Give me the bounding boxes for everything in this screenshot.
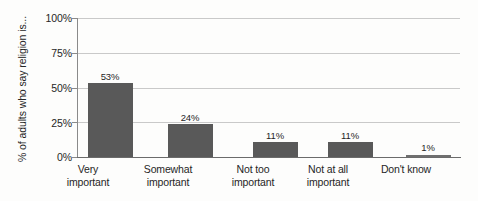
plot-area: 53% 24% 11% 11% 1% (78, 18, 460, 157)
bar-not-at-all-important[interactable] (328, 142, 373, 157)
y-tick-label-0: 0% (12, 151, 72, 163)
x-category-line-2: important (281, 176, 375, 189)
bar-label-somewhat-important: 24% (151, 112, 229, 123)
x-category-label-dont-know: Don't know (359, 163, 453, 176)
y-tick-label-75: 75% (12, 47, 72, 59)
bar-not-too-important[interactable] (253, 142, 298, 157)
y-tick-label-50: 50% (12, 82, 72, 94)
bar-very-important[interactable] (88, 83, 133, 157)
bar-somewhat-important[interactable] (168, 124, 213, 157)
bar-dont-know[interactable] (406, 155, 451, 157)
x-axis-line (77, 157, 461, 158)
bar-slot-dont-know: 1% (398, 18, 476, 157)
x-category-line-1: Don't know (359, 163, 453, 176)
bar-label-very-important: 53% (71, 71, 149, 82)
x-category-line-1: Somewhat (121, 163, 215, 176)
bar-label-dont-know: 1% (389, 142, 467, 153)
y-tick-label-100: 100% (12, 12, 72, 24)
x-category-label-somewhat-important: Somewhat important (121, 163, 215, 188)
y-tick-label-25: 25% (12, 117, 72, 129)
bar-slot-somewhat-important: 24% (160, 18, 238, 157)
bar-label-not-at-all-important: 11% (311, 130, 389, 141)
bar-label-not-too-important: 11% (236, 130, 314, 141)
bar-slot-very-important: 53% (80, 18, 158, 157)
x-category-line-2: important (121, 176, 215, 189)
bar-chart: % of adults who say religion is... 100% … (0, 0, 478, 201)
bar-slot-not-at-all-important: 11% (320, 18, 398, 157)
